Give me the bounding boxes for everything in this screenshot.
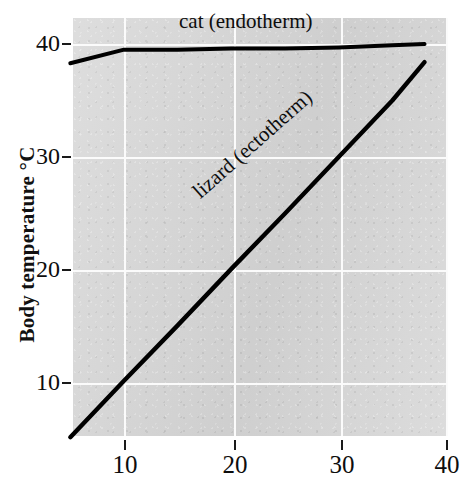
x-tick-mark-30 xyxy=(341,440,343,450)
gridline-x-10 xyxy=(124,18,126,436)
gridline-y-20 xyxy=(73,270,448,272)
plot-background-shading xyxy=(73,18,448,436)
x-tick-mark-40 xyxy=(446,440,448,450)
y-tick-mark-30 xyxy=(62,156,71,158)
gridline-x-20 xyxy=(234,18,236,436)
plot-area xyxy=(73,18,448,436)
x-tick-mark-20 xyxy=(234,440,236,450)
cat-series-label: cat (endotherm) xyxy=(179,9,313,34)
y-tick-label-20: 20 xyxy=(0,257,60,281)
y-tick-mark-10 xyxy=(62,382,71,384)
gridline-y-10 xyxy=(73,383,448,385)
y-tick-label-30: 30 xyxy=(0,144,60,168)
y-tick-mark-40 xyxy=(62,43,71,45)
x-tick-label-20: 20 xyxy=(205,452,265,477)
y-tick-mark-20 xyxy=(62,269,71,271)
x-tick-mark-10 xyxy=(124,440,126,450)
x-tick-label-40: 40 xyxy=(417,452,469,477)
gridline-y-40 xyxy=(73,44,448,46)
plot-background-texture xyxy=(73,18,448,436)
gridline-x-30 xyxy=(341,18,343,436)
gridline-x-40 xyxy=(446,18,448,436)
x-tick-label-10: 10 xyxy=(95,452,155,477)
y-tick-label-40: 40 xyxy=(0,31,60,55)
gridline-y-30 xyxy=(73,157,448,159)
x-tick-label-30: 30 xyxy=(312,452,372,477)
chart-figure: Body temperature °C 40 30 20 10 10 20 30… xyxy=(0,0,469,495)
y-tick-label-10: 10 xyxy=(0,370,60,394)
